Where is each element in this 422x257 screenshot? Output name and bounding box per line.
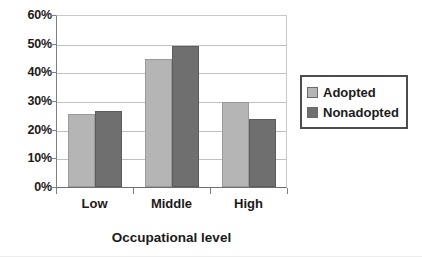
legend-item-adopted: Adopted bbox=[307, 82, 399, 102]
legend-swatch-icon bbox=[307, 107, 318, 118]
bar-group bbox=[68, 15, 122, 187]
bar-group bbox=[222, 15, 276, 187]
category-separator-tick bbox=[287, 188, 288, 194]
legend-label: Adopted bbox=[323, 86, 376, 99]
bar-group bbox=[145, 15, 199, 187]
x-tick-label: High bbox=[210, 197, 287, 210]
category-separator-tick bbox=[133, 188, 134, 194]
x-tick-label: Middle bbox=[133, 197, 210, 210]
y-tick-label: 50% bbox=[6, 38, 52, 51]
y-tick-label: 0% bbox=[6, 181, 52, 194]
y-axis: 0%10%20%30%40%50%60% bbox=[0, 0, 52, 257]
bar-chart-figure: 0%10%20%30%40%50%60% Occupational level … bbox=[0, 0, 422, 257]
y-tick-label: 10% bbox=[6, 152, 52, 165]
y-tick-label: 60% bbox=[6, 9, 52, 22]
legend: AdoptedNonadopted bbox=[300, 75, 408, 129]
bar-low-adopted bbox=[68, 114, 95, 187]
y-tick-label: 30% bbox=[6, 95, 52, 108]
bar-middle-nonadopted bbox=[172, 46, 199, 187]
category-separator-tick bbox=[210, 188, 211, 194]
y-tick-label: 40% bbox=[6, 66, 52, 79]
category-separator-tick bbox=[56, 188, 57, 194]
x-axis-title: Occupational level bbox=[56, 231, 287, 245]
legend-swatch-icon bbox=[307, 87, 318, 98]
x-tick-label: Low bbox=[56, 197, 133, 210]
legend-label: Nonadopted bbox=[323, 106, 399, 119]
y-tick-label: 20% bbox=[6, 124, 52, 137]
bar-middle-adopted bbox=[145, 59, 172, 187]
bar-high-adopted bbox=[222, 102, 249, 187]
bar-low-nonadopted bbox=[95, 111, 122, 187]
bar-high-nonadopted bbox=[249, 119, 276, 187]
legend-item-nonadopted: Nonadopted bbox=[307, 102, 399, 122]
